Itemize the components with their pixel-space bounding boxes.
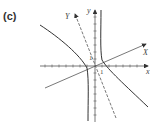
- rotated-y-axis-label: Y: [65, 12, 71, 21]
- rotated-x-axis-label: X: [142, 48, 149, 57]
- x-axis-label: x: [145, 67, 150, 76]
- hyperbola-left-branch: [40, 25, 88, 121]
- y-axis-label: y: [86, 6, 91, 15]
- rotated-axes-hyperbola-diagram: x y X Y 1 1: [0, 0, 161, 133]
- hyperbola-right-branch: [101, 10, 148, 107]
- tick-label-x-one: 1: [100, 68, 104, 76]
- tick-label-y-one: 1: [89, 54, 93, 62]
